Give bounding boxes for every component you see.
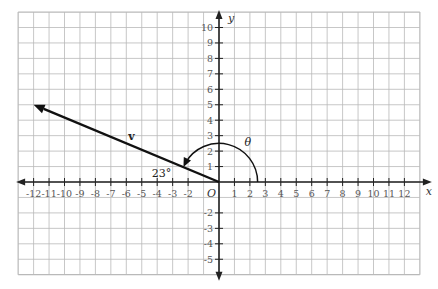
x-tick-label: 1	[231, 188, 237, 199]
y-tick-label: 5	[207, 99, 213, 110]
origin-label: O	[207, 187, 216, 200]
x-tick-label: -10	[57, 188, 72, 199]
x-tick-label: -6	[122, 188, 131, 199]
y-tick-label: 4	[207, 115, 213, 126]
x-tick-label: 11	[383, 188, 395, 199]
x-axis-arrow-left-icon	[16, 179, 25, 186]
x-tick-label: 12	[398, 188, 410, 199]
y-axis-arrow-down-icon	[216, 272, 223, 281]
reference-angle-label: 23°	[152, 167, 172, 180]
x-tick-label: -5	[137, 188, 146, 199]
y-tick-label: 9	[207, 37, 213, 48]
x-axis-label: x	[426, 185, 433, 198]
y-tick-label: 1	[207, 161, 213, 172]
x-tick-label: -9	[75, 188, 84, 199]
y-tick-label: 8	[207, 53, 213, 64]
theta-arc	[185, 143, 257, 182]
x-tick-label: -2	[183, 188, 192, 199]
x-tick-label: 2	[247, 188, 253, 199]
y-tick-label: -5	[204, 254, 213, 265]
x-tick-label: 4	[278, 188, 284, 199]
theta-label: θ	[244, 136, 251, 149]
y-tick-label: 10	[201, 22, 213, 33]
y-tick-label: 6	[207, 84, 213, 95]
y-tick-label: -4	[204, 238, 213, 249]
vector-label: v	[127, 130, 135, 143]
coordinate-plane: -12-11-10-9-8-7-6-5-4-3-2123456789101112…	[0, 0, 438, 289]
x-tick-label: 8	[340, 188, 346, 199]
x-tick-label: -4	[153, 188, 162, 199]
annotations	[34, 105, 258, 182]
y-axis-arrow-up-icon	[216, 10, 223, 19]
y-tick-label: -2	[204, 207, 213, 218]
x-tick-label: 6	[309, 188, 315, 199]
y-tick-label: 3	[207, 130, 213, 141]
x-tick-label: 5	[293, 188, 299, 199]
x-tick-label: 10	[367, 188, 379, 199]
y-tick-label: 7	[207, 68, 213, 79]
x-tick-label: -11	[41, 188, 56, 199]
y-tick-label: 2	[207, 146, 213, 157]
x-tick-label: -3	[168, 188, 177, 199]
x-tick-label: 3	[262, 188, 268, 199]
x-tick-label: -12	[26, 188, 41, 199]
y-axis-label: y	[227, 12, 235, 25]
x-tick-label: -7	[106, 188, 115, 199]
x-tick-label: -8	[91, 188, 100, 199]
axes	[16, 10, 432, 281]
y-tick-label: -3	[204, 223, 213, 234]
x-tick-label: 7	[324, 188, 330, 199]
theta-arc-arrowhead-icon	[183, 157, 191, 167]
vector-v-arrowhead-icon	[34, 105, 46, 113]
x-tick-label: 9	[355, 188, 361, 199]
